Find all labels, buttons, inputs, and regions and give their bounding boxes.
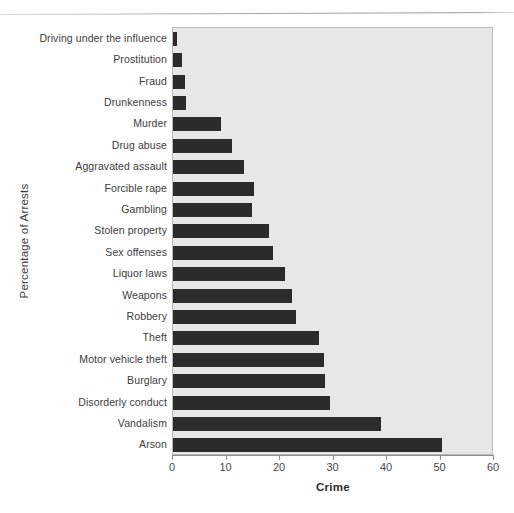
category-label: Driving under the influence <box>0 32 167 44</box>
bar <box>173 96 186 110</box>
bar <box>173 267 285 281</box>
bar <box>173 53 182 67</box>
category-label: Fraud <box>0 75 167 87</box>
category-label: Prostitution <box>0 53 167 65</box>
bar-fill <box>173 160 244 174</box>
bar-fill <box>173 267 285 281</box>
bar-fill <box>173 353 324 367</box>
x-tick-label: 50 <box>425 461 455 473</box>
bar <box>173 32 177 46</box>
x-tick-label: 20 <box>264 461 294 473</box>
category-label: Arson <box>0 438 167 450</box>
bar-fill <box>173 139 232 153</box>
bar <box>173 203 252 217</box>
category-label: Drug abuse <box>0 139 167 151</box>
bar-fill <box>173 396 330 410</box>
x-tick-mark <box>172 455 173 460</box>
x-tick-mark <box>493 455 494 460</box>
category-label: Murder <box>0 117 167 129</box>
bar-fill <box>173 310 296 324</box>
bar <box>173 160 244 174</box>
bar-fill <box>173 246 273 260</box>
category-label: Theft <box>0 331 167 343</box>
category-label: Burglary <box>0 374 167 386</box>
bar-chart-figure: Driving under the influenceProstitutionF… <box>0 0 514 513</box>
x-axis-title: Crime <box>172 481 494 493</box>
x-tick-label: 40 <box>371 461 401 473</box>
bar <box>173 289 292 303</box>
x-tick-mark <box>386 455 387 460</box>
bar <box>173 224 269 238</box>
bar-fill <box>173 224 269 238</box>
bar-fill <box>173 182 254 196</box>
bar-fill <box>173 32 177 46</box>
x-tick-label: 0 <box>157 461 187 473</box>
bar <box>173 75 185 89</box>
x-tick-label: 30 <box>318 461 348 473</box>
x-tick-mark <box>226 455 227 460</box>
bar <box>173 246 273 260</box>
y-axis-title: Percentage of Arrests <box>18 151 30 331</box>
bar-fill <box>173 417 381 431</box>
bar-series <box>173 28 492 454</box>
category-label: Vandalism <box>0 417 167 429</box>
bar <box>173 396 330 410</box>
bar <box>173 182 254 196</box>
category-label: Motor vehicle theft <box>0 353 167 365</box>
bar <box>173 438 442 452</box>
x-tick-label: 60 <box>478 461 508 473</box>
category-label: Disorderly conduct <box>0 396 167 408</box>
plot-area <box>172 27 493 455</box>
bar-fill <box>173 75 185 89</box>
bar-fill <box>173 53 182 67</box>
bar-fill <box>173 438 442 452</box>
bar <box>173 353 324 367</box>
bar <box>173 117 221 131</box>
bar <box>173 417 381 431</box>
category-label: Drunkenness <box>0 96 167 108</box>
bar <box>173 310 296 324</box>
bar-fill <box>173 289 292 303</box>
bar <box>173 331 319 345</box>
bar-fill <box>173 117 221 131</box>
x-tick-mark <box>333 455 334 460</box>
bar <box>173 374 325 388</box>
bar-fill <box>173 96 186 110</box>
bar-fill <box>173 331 319 345</box>
x-tick-mark <box>279 455 280 460</box>
bar-fill <box>173 374 325 388</box>
bar <box>173 139 232 153</box>
x-tick-label: 10 <box>211 461 241 473</box>
bar-fill <box>173 203 252 217</box>
x-tick-mark <box>440 455 441 460</box>
